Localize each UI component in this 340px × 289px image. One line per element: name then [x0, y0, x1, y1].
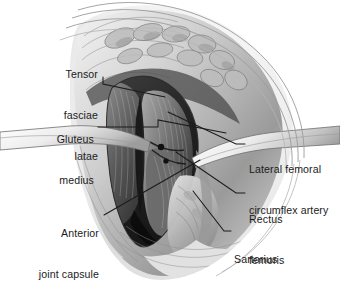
label-line: Lateral femoral: [249, 163, 340, 177]
label-line: medius: [0, 174, 94, 188]
illustration-canvas: Tensor fasciae latae Gluteus medius Ante…: [0, 0, 340, 289]
label-gluteus-medius: Gluteus medius: [0, 106, 94, 215]
label-line: Tensor: [0, 68, 98, 82]
label-line: joint capsule: [0, 268, 99, 282]
label-sartorius: Sartorius: [234, 226, 334, 289]
label-anterior-joint-capsule: Anterior joint capsule: [0, 200, 99, 289]
label-line: Gluteus: [0, 133, 94, 147]
label-line: Anterior: [0, 227, 99, 241]
label-line: Rectus: [249, 213, 340, 227]
label-line: Sartorius: [234, 253, 334, 267]
